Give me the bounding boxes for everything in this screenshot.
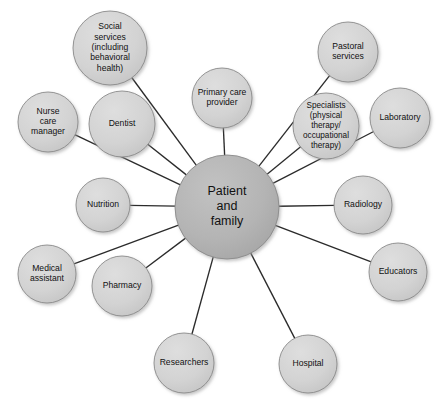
- node-circle-primary-care-provider[interactable]: [192, 68, 252, 128]
- node-circle-pharmacy[interactable]: [92, 256, 152, 316]
- node-educators[interactable]: Educators: [369, 243, 427, 301]
- node-social-services[interactable]: Socialservices(includingbehavioralhealth…: [73, 11, 147, 85]
- node-circle-hospital[interactable]: [279, 335, 337, 393]
- node-medical-assistant[interactable]: Medicalassistant: [18, 245, 76, 303]
- node-circle-specialists[interactable]: [293, 93, 359, 159]
- network-diagram: Socialservices(includingbehavioralhealth…: [0, 0, 447, 409]
- edge-patient-and-family-to-dentist: [147, 144, 187, 176]
- node-circle-radiology[interactable]: [334, 176, 392, 234]
- node-circle-educators[interactable]: [369, 243, 427, 301]
- node-circle-patient-and-family[interactable]: [175, 155, 279, 259]
- node-circle-researchers[interactable]: [154, 333, 214, 393]
- edge-patient-and-family-to-nutrition: [129, 205, 176, 206]
- edge-patient-and-family-to-researchers: [192, 256, 214, 335]
- node-researchers[interactable]: Researchers: [154, 333, 214, 393]
- edge-patient-and-family-to-pharmacy: [145, 238, 186, 269]
- node-radiology[interactable]: Radiology: [334, 176, 392, 234]
- node-dentist[interactable]: Dentist: [89, 91, 155, 157]
- node-circle-social-services[interactable]: [73, 11, 147, 85]
- node-nutrition[interactable]: Nutrition: [76, 178, 130, 232]
- edge-patient-and-family-to-hospital: [250, 252, 295, 339]
- edge-patient-and-family-to-primary-care-provider: [223, 127, 224, 156]
- node-laboratory[interactable]: Laboratory: [370, 88, 430, 148]
- node-specialists[interactable]: Specialists(physicaltherapy/occupational…: [293, 93, 359, 159]
- node-pastoral-services[interactable]: Pastoralservices: [318, 22, 378, 82]
- node-circle-nurse-care-manager[interactable]: [18, 92, 78, 152]
- node-primary-care-provider[interactable]: Primary careprovider: [192, 68, 252, 128]
- node-pharmacy[interactable]: Pharmacy: [92, 256, 152, 316]
- node-patient-and-family[interactable]: Patientandfamily: [175, 155, 279, 259]
- node-circle-medical-assistant[interactable]: [18, 245, 76, 303]
- nodes-layer: Socialservices(includingbehavioralhealth…: [18, 11, 430, 393]
- node-circle-laboratory[interactable]: [370, 88, 430, 148]
- node-hospital[interactable]: Hospital: [279, 335, 337, 393]
- node-circle-dentist[interactable]: [89, 91, 155, 157]
- node-circle-pastoral-services[interactable]: [318, 22, 378, 82]
- edge-patient-and-family-to-radiology: [278, 205, 335, 206]
- node-circle-nutrition[interactable]: [76, 178, 130, 232]
- diagram-canvas: Socialservices(includingbehavioralhealth…: [0, 0, 447, 409]
- node-nurse-care-manager[interactable]: Nursecaremanager: [18, 92, 78, 152]
